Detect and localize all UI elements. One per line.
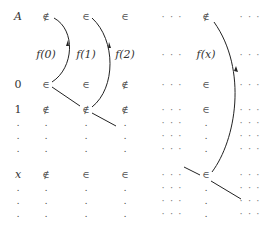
- cell-A-2: ∈: [121, 11, 128, 23]
- vdot: .: [44, 117, 47, 129]
- vdot: .: [204, 143, 207, 155]
- vdot: .: [123, 143, 126, 155]
- row-label-dot: .: [16, 182, 19, 194]
- cell-1-x: ∈: [202, 104, 209, 116]
- diagonal-line-out-x: [211, 181, 241, 199]
- vdot: .: [84, 208, 87, 220]
- row-label-dot: .: [16, 117, 19, 129]
- vdot: .: [204, 182, 207, 194]
- row-label-1: 1: [15, 104, 22, 116]
- cell-0-0: ∈: [42, 79, 49, 91]
- row-label-A: A: [14, 11, 22, 23]
- arrow-fx: [212, 22, 235, 172]
- row-label-dot: .: [16, 143, 19, 155]
- diagonal-line-1-2: [92, 113, 116, 126]
- vdot: .: [44, 182, 47, 194]
- dots: · · ·: [240, 117, 261, 129]
- row-label-dot: .: [16, 208, 19, 220]
- cell-A-ellipsis: · · ·: [162, 11, 183, 23]
- cell-0-1: ∈: [82, 79, 89, 91]
- vdot: .: [204, 130, 207, 142]
- vdot: .: [44, 208, 47, 220]
- vdot: .: [84, 117, 87, 129]
- func-ellipsis-end: · · ·: [240, 49, 261, 61]
- func-f1: f(1): [76, 49, 96, 61]
- row-label-x: x: [15, 169, 21, 181]
- func-f0: f(0): [36, 49, 56, 61]
- vdot: .: [84, 195, 87, 207]
- vdot: .: [123, 130, 126, 142]
- dots: · · ·: [162, 195, 183, 207]
- func-f2: f(2): [115, 49, 135, 61]
- cell-x-0: ∉: [42, 169, 49, 181]
- dots: · · ·: [162, 130, 183, 142]
- dots: · · ·: [240, 208, 261, 220]
- cell-1-ellipsis: · · ·: [162, 104, 183, 116]
- func-ellipsis: · · ·: [162, 49, 183, 61]
- vdot: .: [44, 195, 47, 207]
- dots: · · ·: [162, 208, 183, 220]
- diagonal-line-0-1: [52, 87, 80, 106]
- cell-A-x: ∉: [202, 11, 209, 23]
- vdot: .: [123, 117, 126, 129]
- vdot: .: [84, 182, 87, 194]
- cell-A-1: ∈: [82, 11, 89, 23]
- cell-x-1: ∈: [82, 169, 89, 181]
- cell-x-2: ∈: [121, 169, 128, 181]
- cell-0-x: ∈: [202, 79, 209, 91]
- cell-x-ellipsis: · · ·: [162, 169, 183, 181]
- dots: · · ·: [162, 143, 183, 155]
- vdot: .: [84, 130, 87, 142]
- diagonal-line-into-x: [184, 167, 200, 175]
- func-fx: f(x): [197, 49, 216, 61]
- arrowhead-icon: [234, 66, 238, 72]
- vdot: .: [44, 130, 47, 142]
- cell-0-2: ∉: [121, 79, 128, 91]
- cell-x-x: ∈: [202, 169, 209, 181]
- arrowhead-icon: [108, 42, 111, 48]
- dots: · · ·: [162, 117, 183, 129]
- vdot: .: [204, 208, 207, 220]
- cell-1-2: ∉: [121, 104, 128, 116]
- cell-1-ellipsis-end: · · ·: [240, 104, 261, 116]
- cell-A-0: ∉: [42, 11, 49, 23]
- arrow-f1: [92, 18, 110, 107]
- cell-A-ellipsis-end: · · ·: [240, 11, 261, 23]
- vdot: .: [123, 182, 126, 194]
- cell-1-1: ∉: [82, 104, 89, 116]
- row-label-dot: .: [16, 195, 19, 207]
- diagonal-arrows: [0, 0, 273, 230]
- vdot: .: [204, 117, 207, 129]
- dots: · · ·: [162, 182, 183, 194]
- cell-0-ellipsis-end: · · ·: [240, 79, 261, 91]
- dots: · · ·: [240, 130, 261, 142]
- dots: · · ·: [240, 182, 261, 194]
- cell-x-ellipsis-end: · · ·: [240, 169, 261, 181]
- dots: · · ·: [240, 143, 261, 155]
- dots: · · ·: [240, 195, 261, 207]
- arrowhead-icon: [66, 40, 69, 46]
- vdot: .: [204, 195, 207, 207]
- row-label-0: 0: [15, 79, 22, 91]
- vdot: .: [123, 195, 126, 207]
- cell-0-ellipsis: · · ·: [162, 79, 183, 91]
- vdot: .: [123, 208, 126, 220]
- vdot: .: [84, 143, 87, 155]
- vdot: .: [44, 143, 47, 155]
- row-label-dot: .: [16, 130, 19, 142]
- cell-1-0: ∉: [42, 104, 49, 116]
